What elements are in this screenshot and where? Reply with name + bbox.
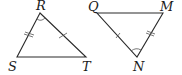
label-t: T — [82, 59, 92, 74]
angle-arc-r — [37, 18, 45, 20]
triangle-rst — [17, 13, 86, 57]
label-m: M — [159, 0, 174, 14]
triangle-qmn — [97, 13, 163, 57]
label-q: Q — [88, 0, 99, 14]
label-r: R — [35, 0, 46, 13]
triangle-qmn-outline — [97, 13, 163, 57]
angle-arc-n — [131, 49, 141, 51]
label-s: S — [8, 59, 17, 74]
label-n: N — [132, 59, 145, 74]
congruent-triangles-diagram: R S T Q M N — [0, 0, 182, 75]
